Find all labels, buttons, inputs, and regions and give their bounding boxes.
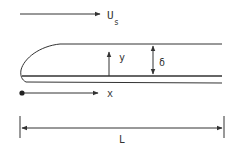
length-label: L xyxy=(119,134,125,145)
free-stream-label: U xyxy=(107,9,114,22)
free-stream-subscript: s xyxy=(114,18,119,27)
origin-dot xyxy=(19,90,24,95)
x-axis-label: x xyxy=(107,88,113,99)
thickness-label: δ xyxy=(159,57,165,68)
y-axis-label: y xyxy=(119,52,125,63)
boundary-layer-edge xyxy=(21,44,222,83)
boundary-layer-diagram: U s y δ x L xyxy=(0,0,237,150)
